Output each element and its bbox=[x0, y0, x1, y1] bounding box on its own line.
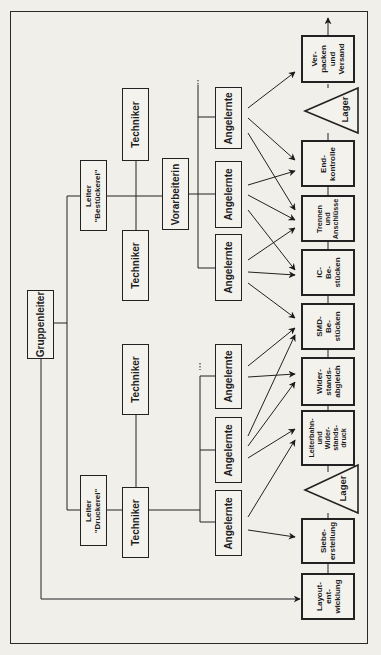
process-trennen-box: Trennen und Anschlüsse bbox=[301, 195, 355, 242]
process-label: IC- Be- stücken bbox=[314, 257, 341, 287]
worker-label: Angelernte bbox=[223, 168, 234, 220]
worker-box: Angelernte bbox=[215, 234, 242, 301]
worker-box: Angelernte bbox=[215, 490, 242, 556]
worker-box: Angelernte bbox=[215, 161, 242, 228]
leader-bestueckerei-box: Leiter "Bestückerei" bbox=[80, 160, 107, 231]
worker-label: Angelernte bbox=[223, 241, 234, 293]
technician-box: Techniker bbox=[122, 487, 149, 558]
process-smd-box: SMD- Be- stücken bbox=[301, 303, 355, 350]
process-siebe-box: Siebe- erstellung bbox=[301, 518, 355, 564]
worker-box: Angelernte bbox=[215, 417, 242, 483]
technician-label: Techniker bbox=[130, 356, 141, 403]
worker-label: Angelernte bbox=[223, 92, 234, 144]
process-ic-box: IC- Be- stücken bbox=[301, 249, 355, 296]
technician-label: Techniker bbox=[130, 499, 141, 546]
worker-box: Angelernte bbox=[215, 344, 242, 409]
technician-label: Techniker bbox=[130, 101, 141, 148]
technician-label: Techniker bbox=[130, 242, 141, 289]
process-label: End- kontrolle bbox=[319, 147, 337, 181]
storage-triangle bbox=[305, 465, 358, 513]
process-label: SMD- Be- stücken bbox=[314, 311, 341, 341]
process-label: Trennen und Anschlüsse bbox=[316, 198, 340, 238]
process-label: Siebe- erstellung bbox=[319, 522, 337, 560]
technician-box: Techniker bbox=[122, 88, 149, 161]
worker-label: Angelernte bbox=[223, 350, 234, 402]
process-label: Layout- ent- wicklung bbox=[314, 579, 341, 613]
process-versand-box: Ver- packen und Versand bbox=[301, 35, 355, 83]
storage-label: Lager bbox=[337, 476, 348, 502]
group-leader-box: Gruppenleiter bbox=[27, 290, 54, 359]
process-endkontrolle-box: End- kontrolle bbox=[301, 140, 355, 187]
process-layout-box: Layout- ent- wicklung bbox=[301, 573, 355, 620]
org-process-diagram: Gruppenleiter Leiter "Bestückerei" Leite… bbox=[0, 0, 381, 655]
supervisor-label: Vorarbeiterin bbox=[170, 163, 181, 225]
worker-label: Angelernte bbox=[223, 497, 234, 549]
process-label: Wider- stands- abgleich bbox=[314, 365, 341, 397]
worker-box: Angelernte bbox=[215, 87, 242, 149]
leader-label: Leiter "Bestückerei" bbox=[85, 169, 103, 222]
process-druck-box: Leiterbahn- und Wider- stands- druck bbox=[301, 410, 355, 466]
leader-label: Leiter "Druckerei" bbox=[85, 488, 103, 533]
supervisor-box: Vorarbeiterin bbox=[162, 158, 189, 230]
technician-box: Techniker bbox=[122, 344, 149, 415]
process-label: Leiterbahn- und Wider- stands- druck bbox=[308, 418, 348, 457]
process-label: Ver- packen und Versand bbox=[310, 43, 346, 74]
group-leader-label: Gruppenleiter bbox=[35, 292, 46, 358]
storage-label: Lager bbox=[339, 97, 350, 123]
process-abgleich-box: Wider- stands- abgleich bbox=[301, 357, 355, 406]
worker-label: Angelernte bbox=[223, 424, 234, 476]
technician-box: Techniker bbox=[122, 230, 149, 301]
leader-druckerei-box: Leiter "Druckerei" bbox=[80, 475, 107, 546]
